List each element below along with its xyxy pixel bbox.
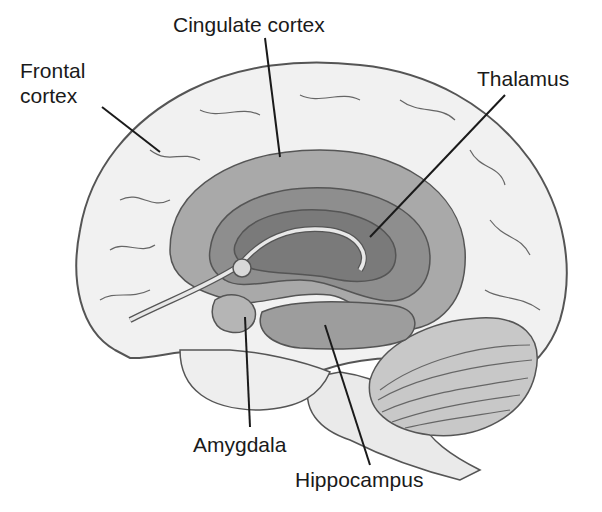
- label-hippocampus: Hippocampus: [295, 467, 423, 492]
- label-frontal-cortex: Frontal cortex: [20, 58, 85, 108]
- label-thalamus: Thalamus: [477, 66, 569, 91]
- hippocampus: [260, 302, 415, 349]
- mammillary-body: [233, 259, 251, 277]
- amygdala: [212, 295, 255, 333]
- label-amygdala: Amygdala: [193, 432, 286, 457]
- label-cingulate-cortex: Cingulate cortex: [173, 12, 325, 37]
